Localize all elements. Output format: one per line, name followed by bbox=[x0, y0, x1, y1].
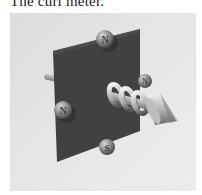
ball-bottom-s: S bbox=[99, 139, 115, 155]
curl-meter-figure: N N N S bbox=[10, 13, 196, 191]
svg-text:S: S bbox=[104, 143, 109, 153]
figure-caption: The curl meter. bbox=[10, 0, 104, 10]
ball-right-n: N bbox=[138, 74, 152, 88]
svg-text:N: N bbox=[142, 77, 148, 86]
curl-meter-illustration: N N N S bbox=[10, 13, 196, 191]
svg-text:N: N bbox=[101, 34, 108, 45]
svg-text:N: N bbox=[59, 105, 66, 116]
arrow-cone bbox=[143, 93, 178, 126]
